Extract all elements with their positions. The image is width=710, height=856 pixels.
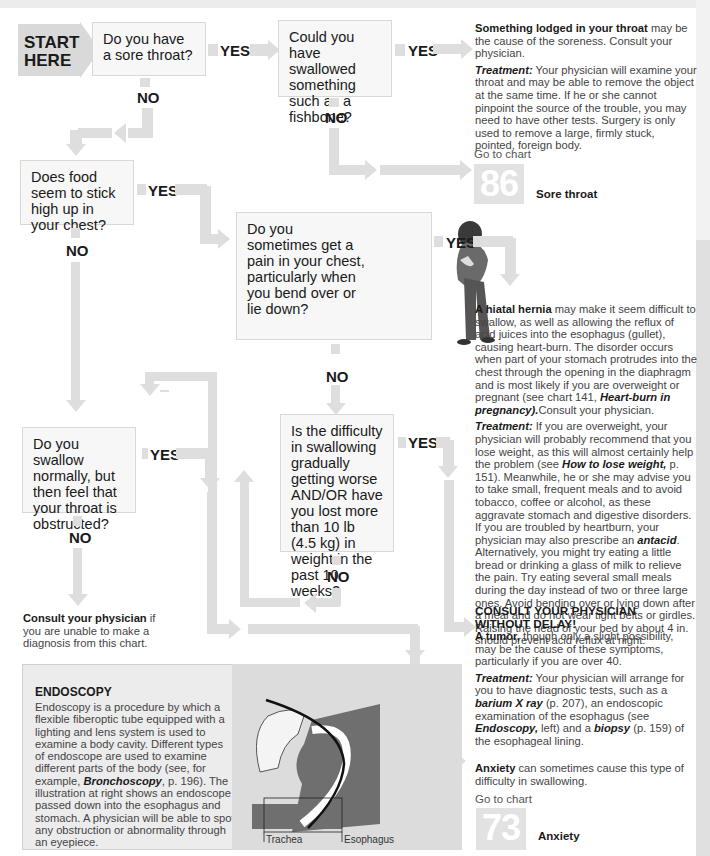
endoscope-illustration [232,664,462,850]
yes-arrow-stub [398,437,406,448]
no-arrow-stub [140,78,150,87]
goto-chart-label: Go to chart [474,148,531,160]
no-arrow [331,385,340,405]
no-arrow [73,548,82,596]
arrow-head-icon [460,160,472,180]
no-label: NO [327,568,350,585]
no-arrow [78,128,112,138]
loop-arrow [150,372,216,381]
question-fishbone[interactable]: Could you have swallowed something such … [278,20,392,97]
no-label: NO [326,368,349,385]
arrow-head-icon [68,594,88,606]
no-arrow-stub [332,556,341,565]
outcome-lodged: Something lodged in your throat may be t… [475,22,697,156]
no-arrow [329,165,365,175]
question-sore-throat[interactable]: Do you have a sore throat? [92,22,206,76]
arrow-head-icon [438,466,458,478]
arrow-head-icon [200,478,220,490]
arrow-head-icon [229,619,241,639]
chart-name-sore-throat[interactable]: Sore throat [536,188,597,200]
arrow-head-icon [234,470,254,482]
arrow-head-icon [461,39,473,59]
yes-arrow [444,480,454,630]
no-arrow [71,262,80,400]
outcome-anxiety: Anxiety can sometimes cause this type of… [475,762,697,791]
yes-arrow-stub [137,184,146,195]
yes-arrow-stub [142,448,148,459]
yes-label: YES [446,234,476,251]
no-label: NO [137,89,160,106]
page-edge-shadow [696,240,710,856]
arrow-head-icon [365,160,377,180]
no-arrow [240,598,300,607]
urgent-heading: CONSULT YOUR PHYSICIANWITHOUT DELAY! [475,605,697,630]
goto-chart-label: Go to chart [475,793,532,805]
yes-arrow [205,450,215,480]
endoscopy-title: ENDOSCOPY [35,685,112,699]
no-arrow [316,598,340,607]
question-weight-loss[interactable]: Is the difficulty in swallowing graduall… [280,414,394,552]
yes-arrow-stub [208,44,218,56]
yes-arrow [207,624,231,634]
question-food-sticks[interactable]: Does food seem to stick high up in your … [20,160,134,225]
no-label: NO [66,242,89,259]
esophagus-label: Esophagus [344,834,394,845]
no-arrow-stub [329,98,339,107]
no-label: NO [69,529,92,546]
question-chest-pain[interactable]: Do you sometimes get a pain in your ches… [236,212,432,340]
arrow-head-icon [66,400,86,412]
question-throat-obstructed[interactable]: Do you swallow normally, but then feel t… [22,427,136,513]
no-arrow-stub [331,344,340,354]
yes-arrow [248,624,418,634]
top-band [0,0,700,8]
no-arrow [128,128,153,138]
outcome-hiatal-hernia: A hiatal hernia may make it seem difficu… [475,303,697,651]
no-arrow-stub [73,516,82,526]
start-label: START HERE [24,34,79,70]
arrow-head-icon [218,229,230,249]
arrow-head-icon [500,274,520,286]
outcome-tumor: CONSULT YOUR PHYSICIANWITHOUT DELAY! A t… [475,605,697,751]
arrow-head-icon [66,144,86,156]
yes-arrow-stub [395,44,405,56]
chart-name-anxiety[interactable]: Anxiety [538,830,580,842]
loop-arrow [160,390,169,392]
arrow-head-icon [405,650,425,662]
chart-86-link[interactable]: 86 [474,164,524,204]
outcome-consult: Consult your physician if you are unable… [23,612,173,654]
yes-arrow [443,440,454,468]
yes-label: YES [148,182,178,199]
yes-label: YES [408,434,438,451]
yes-arrow-stub [434,236,443,247]
yes-arrow [505,238,516,274]
no-arrow-stub [71,228,80,238]
no-label: NO [325,109,348,126]
no-arrow [380,165,460,175]
yes-arrow [433,44,461,54]
chart-73-link[interactable]: 73 [476,808,526,850]
yes-arrow [200,234,220,244]
endoscopy-text: Endoscopy is a procedure by which a flex… [35,701,235,849]
yes-arrow [250,44,268,56]
yes-arrow [200,186,211,238]
yes-label: YES [220,42,250,59]
arrow-head-icon [140,384,160,396]
yes-arrow [207,492,217,632]
arrow-head-icon [304,593,316,613]
arrow-head-icon [114,123,126,143]
no-arrow [240,480,249,606]
trachea-label: Trachea [266,834,302,845]
